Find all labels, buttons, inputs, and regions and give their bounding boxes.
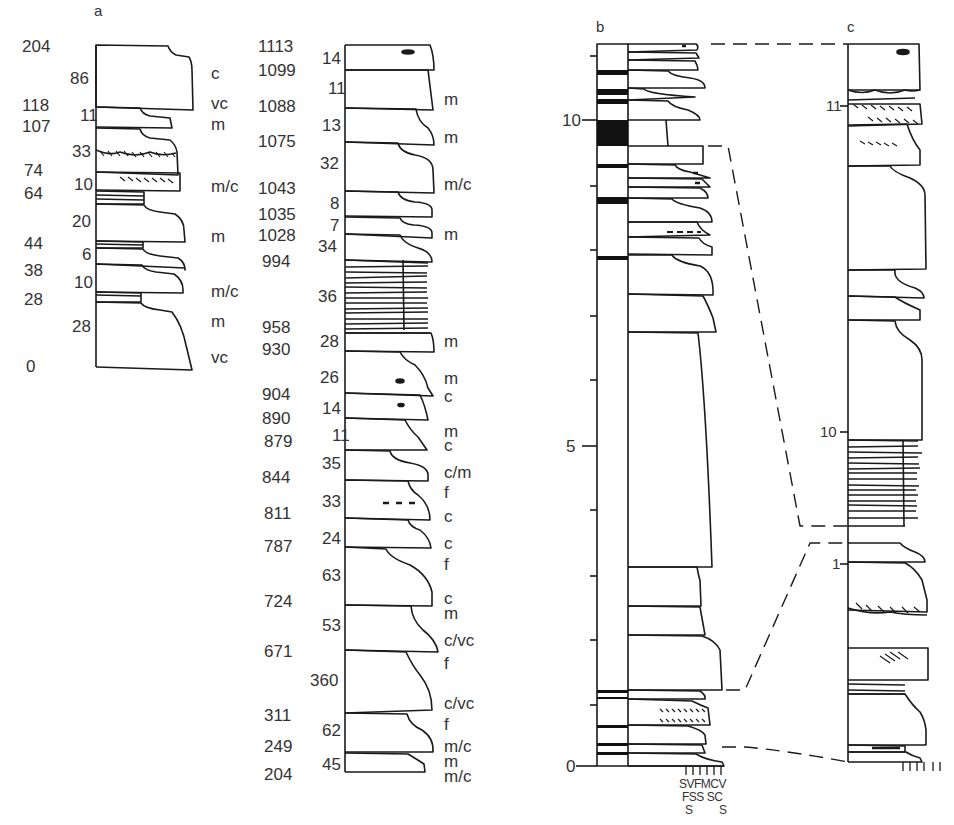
- grain-scale-row2: FSS SC: [682, 791, 722, 803]
- depth-label: 890: [262, 410, 290, 427]
- depth-label: 1099: [258, 62, 296, 79]
- grain-size-label: c: [444, 535, 453, 552]
- grain-size-label: f: [444, 716, 449, 733]
- depth-label: 204: [22, 38, 50, 55]
- panel-label-a: a: [94, 2, 102, 19]
- grain-size-label: m: [444, 91, 458, 108]
- grain-size-label: m/c: [444, 768, 471, 785]
- depth-label: 844: [262, 469, 290, 486]
- depth-label: 44: [24, 235, 43, 252]
- thickness-label: 20: [72, 213, 91, 230]
- grain-scale-row1: SVFMCV: [679, 778, 726, 790]
- grain-size-label: c: [444, 437, 453, 454]
- grain-size-label: c/vc: [444, 632, 474, 649]
- thickness-label: 86: [70, 70, 89, 87]
- scale-label: 11: [826, 98, 842, 113]
- scale-label: 10: [820, 424, 837, 439]
- scale-label: 5: [566, 438, 575, 455]
- depth-label: 1028: [258, 227, 296, 244]
- grain-size-label: f: [444, 556, 449, 573]
- depth-label: 204: [264, 766, 292, 783]
- thickness-label: 360: [310, 672, 338, 689]
- thickness-label: 14: [322, 400, 341, 417]
- panel-label-b: b: [596, 18, 604, 35]
- thickness-label: 11: [328, 80, 346, 97]
- grain-size-label: m/c: [444, 176, 471, 193]
- depth-label: 28: [24, 291, 43, 308]
- scale-label: 1: [832, 556, 840, 571]
- grain-scale-row3a: S: [685, 804, 693, 816]
- thickness-label: 10: [74, 176, 93, 193]
- thickness-label: 45: [322, 756, 341, 773]
- grain-size-label: m/c: [211, 178, 238, 195]
- grain-size-label: m: [444, 129, 458, 146]
- depth-label: 879: [264, 433, 292, 450]
- depth-label: 38: [24, 262, 43, 279]
- depth-label: 787: [264, 538, 292, 555]
- grain-size-label: m/c: [211, 283, 238, 300]
- thickness-label: 26: [320, 369, 339, 386]
- depth-label: 930: [262, 341, 290, 358]
- depth-label: 1113: [258, 38, 293, 55]
- thickness-label: 34: [318, 238, 337, 255]
- depth-label: 724: [264, 593, 292, 610]
- thickness-label: 53: [322, 617, 341, 634]
- thickness-label: 36: [318, 288, 337, 305]
- depth-label: 1035: [258, 206, 296, 223]
- grain-size-label: f: [444, 655, 449, 672]
- stratigraphic-figure: [0, 0, 954, 825]
- depth-label: 904: [262, 386, 290, 403]
- depth-label: 64: [24, 185, 43, 202]
- grain-size-label: c/m: [444, 464, 471, 481]
- grain-size-label: f: [444, 484, 449, 501]
- thickness-label: 33: [72, 143, 91, 160]
- grain-size-label: m: [444, 370, 458, 387]
- grain-size-label: m: [444, 333, 458, 350]
- depth-label: 671: [264, 643, 292, 660]
- depth-label: 118: [22, 97, 49, 114]
- depth-label: 958: [262, 319, 290, 336]
- thickness-label: 10: [74, 274, 93, 291]
- log-a: [96, 45, 193, 370]
- grain-size-label: m: [211, 116, 225, 133]
- thickness-label: 35: [322, 455, 341, 472]
- log-a2: [345, 45, 438, 772]
- thickness-label: 28: [72, 318, 91, 335]
- depth-label: 1088: [258, 98, 296, 115]
- thickness-label: 63: [322, 567, 341, 584]
- thickness-label: 7: [330, 217, 339, 234]
- depth-label: 994: [262, 253, 290, 270]
- grain-scale-row3b: S: [719, 804, 727, 816]
- panel-label-c: c: [847, 18, 855, 35]
- scale-label: 10: [562, 112, 581, 129]
- grain-size-label: c: [211, 65, 220, 82]
- depth-label: 107: [22, 118, 50, 135]
- grain-size-label: m: [444, 605, 458, 622]
- depth-label: 311: [264, 707, 291, 724]
- grain-size-label: m: [444, 226, 458, 243]
- thickness-label: 6: [82, 246, 91, 263]
- thickness-label: 33: [322, 493, 341, 510]
- thickness-label: 11: [80, 107, 98, 124]
- log-b: [576, 44, 724, 775]
- depth-label: 249: [264, 738, 292, 755]
- thickness-label: 32: [320, 155, 339, 172]
- thickness-label: 24: [322, 530, 341, 547]
- thickness-label: 8: [330, 195, 339, 212]
- grain-size-label: m: [211, 313, 225, 330]
- grain-size-label: vc: [211, 349, 228, 366]
- scale-label: 0: [566, 758, 575, 775]
- log-c: [840, 44, 940, 771]
- grain-size-label: vc: [211, 95, 228, 112]
- depth-label: 0: [26, 358, 35, 375]
- depth-label: 1043: [258, 180, 296, 197]
- grain-size-label: c: [444, 388, 453, 405]
- depth-label: 811: [264, 505, 291, 522]
- thickness-label: 28: [320, 333, 339, 350]
- grain-size-label: c/vc: [444, 695, 474, 712]
- grain-size-label: c: [444, 508, 453, 525]
- thickness-label: 11: [332, 427, 350, 444]
- thickness-label: 62: [322, 722, 341, 739]
- correlation-lines: [708, 44, 848, 762]
- depth-label: 1075: [258, 133, 296, 150]
